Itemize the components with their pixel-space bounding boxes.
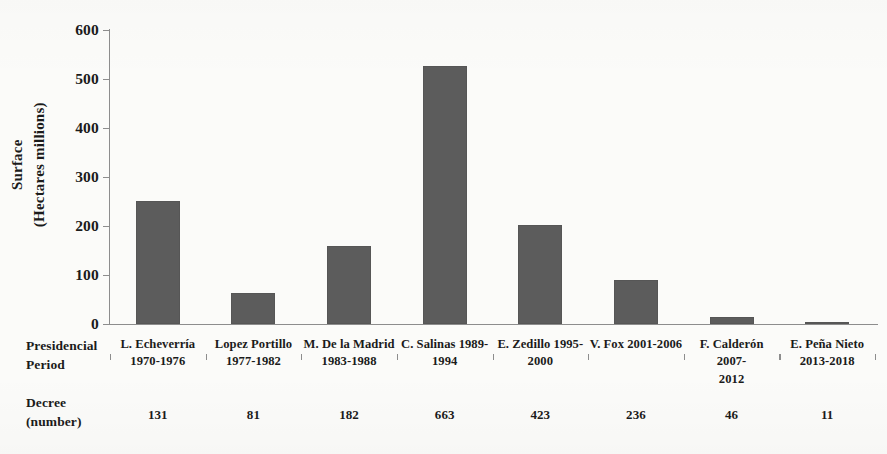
period-label-line-1: E. Zedillo 1995- [493, 336, 589, 353]
decree-number-cell: 236 [588, 407, 684, 423]
y-axis-title: Surface (Hectares millions) [0, 0, 56, 330]
y-tick-mark [103, 79, 110, 80]
period-label-line-2: 1970-1976 [110, 353, 206, 370]
bar-slot [301, 30, 397, 324]
period-label-cell: E. Peña Nieto2013-2018 [779, 336, 875, 371]
y-tick-mark [103, 275, 110, 276]
y-tick-label: 400 [75, 119, 99, 137]
period-label-line-1: C. Salinas 1989- [397, 336, 493, 353]
row-header-presidencial-period: Presidencial Period [26, 336, 97, 374]
period-label-cell: L. Echeverría1970-1976 [110, 336, 206, 371]
bar [710, 317, 754, 324]
bar-slot [684, 30, 780, 324]
chart-figure: Surface (Hectares millions) 010020030040… [0, 0, 887, 454]
period-label-cell: M. De la Madrid1983-1988 [301, 336, 397, 371]
row-header-presidencial-line-1: Presidencial [26, 336, 97, 355]
y-tick-mark [103, 177, 110, 178]
bar-slot [588, 30, 684, 324]
bar [805, 322, 849, 324]
row-header-presidencial-line-2: Period [26, 355, 97, 374]
decree-number-cell: 46 [684, 407, 780, 423]
period-label-line-1: V. Fox 2001-2006 [588, 336, 684, 353]
row-header-decree: Decree (number) [26, 393, 82, 431]
period-label-line-2: 2013-2018 [779, 353, 875, 370]
decree-number-cell: 663 [397, 407, 493, 423]
period-label-line-2: 2000 [493, 353, 589, 370]
period-label-line-1: M. De la Madrid [301, 336, 397, 353]
decree-number-cell: 182 [301, 407, 397, 423]
category-label-table: Presidencial Period Decree (number) L. E… [0, 330, 887, 454]
y-tick-mark [103, 226, 110, 227]
decree-number-cell: 423 [493, 407, 589, 423]
y-tick-label: 200 [75, 217, 99, 235]
decree-number-cell: 131 [110, 407, 206, 423]
period-label-line-1: L. Echeverría [110, 336, 206, 353]
bar [614, 280, 658, 324]
period-label-line-1: F. Calderón 2007- [684, 336, 780, 371]
y-tick-label: 600 [75, 21, 99, 39]
bar [136, 201, 180, 324]
y-tick-label: 300 [75, 168, 99, 186]
bar-slot [493, 30, 589, 324]
period-label-cell: F. Calderón 2007-2012 [684, 336, 780, 388]
row-header-decree-line-2: (number) [26, 412, 82, 431]
period-label-line-1: Lopez Portillo [206, 336, 302, 353]
period-label-cell: Lopez Portillo1977-1982 [206, 336, 302, 371]
decree-number-cell: 81 [206, 407, 302, 423]
y-tick-mark [103, 324, 110, 325]
row-header-decree-line-1: Decree [26, 393, 82, 412]
bar-slot [110, 30, 206, 324]
period-label-line-2: 1994 [397, 353, 493, 370]
y-tick-mark [103, 30, 110, 31]
bar-slot [206, 30, 302, 324]
y-axis-title-line-2: (Hectares millions) [28, 103, 50, 228]
period-label-cell: E. Zedillo 1995-2000 [493, 336, 589, 371]
decree-number-cell: 11 [779, 407, 875, 423]
bar [423, 66, 467, 324]
period-label-line-1: E. Peña Nieto [779, 336, 875, 353]
bar-slot [779, 30, 875, 324]
y-tick-mark [103, 128, 110, 129]
bar [231, 293, 275, 324]
period-label-cell: C. Salinas 1989-1994 [397, 336, 493, 371]
y-tick-label: 500 [75, 70, 99, 88]
bar-slot [397, 30, 493, 324]
period-label-line-2: 1983-1988 [301, 353, 397, 370]
y-axis-title-line-1: Surface [6, 103, 28, 228]
period-label-line-2: 1977-1982 [206, 353, 302, 370]
period-label-cell: V. Fox 2001-2006 [588, 336, 684, 353]
period-label-line-2: 2012 [684, 371, 780, 388]
plot-area: 0100200300400500600 [110, 30, 875, 324]
bar [518, 225, 562, 324]
y-tick-label: 100 [75, 266, 99, 284]
bar [327, 246, 371, 324]
